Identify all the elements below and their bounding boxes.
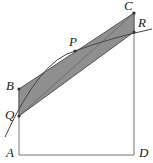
label-r: R — [137, 15, 146, 30]
geometry-figure: B Q A D P C R — [0, 0, 153, 163]
label-a: A — [5, 145, 14, 160]
curve-qpr — [5, 29, 152, 137]
diagonal-qc — [19, 13, 134, 116]
label-c: C — [124, 0, 133, 13]
point-r — [132, 30, 135, 33]
label-q: Q — [5, 107, 15, 122]
point-b — [17, 87, 20, 90]
point-p — [73, 49, 76, 52]
label-d: D — [138, 145, 149, 160]
label-p: P — [68, 34, 77, 49]
point-c — [132, 11, 135, 14]
point-q — [17, 114, 20, 117]
label-b: B — [6, 78, 14, 93]
